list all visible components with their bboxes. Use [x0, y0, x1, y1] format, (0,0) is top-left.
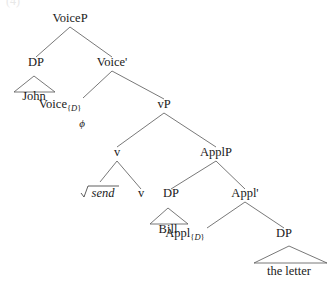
- branch-voiceP-dp: [36, 27, 70, 57]
- branch-applp-applbar: [216, 161, 245, 189]
- branch-vp-v: [117, 113, 164, 147]
- node-vP: vP: [157, 97, 170, 111]
- branch-voiceP-voicebar: [70, 27, 112, 57]
- branch-voicebar-vp: [112, 71, 164, 99]
- node-dp-subject: DP: [28, 55, 44, 69]
- node-appl-head-sub-close: }: [201, 232, 205, 242]
- node-root-send: send: [92, 186, 116, 200]
- node-applP: ApplP: [200, 145, 232, 159]
- tree-node-labels: VoiceP DP Voice' John Voice{D} ϕ vP v Ap…: [22, 11, 312, 278]
- node-v: v: [114, 145, 121, 159]
- node-appl-bar: Appl': [231, 186, 258, 200]
- node-voice-bar: Voice': [97, 55, 128, 69]
- tree-canvas: VoiceP DP Voice' John Voice{D} ϕ vP v Ap…: [0, 0, 335, 284]
- branch-v-vleaf: [117, 161, 141, 189]
- node-voice-head: Voice{D}: [39, 97, 82, 113]
- branch-applbar-applhead: [207, 202, 245, 228]
- branch-voicebar-voicehead: [83, 71, 112, 98]
- branch-vp-applp: [164, 113, 216, 147]
- leaf-the-letter: the letter: [267, 264, 312, 278]
- branch-applp-dpbill: [171, 161, 216, 189]
- branch-applbar-dpletter: [245, 202, 284, 228]
- node-phi: ϕ: [79, 117, 85, 129]
- node-dp-letter: DP: [276, 226, 292, 240]
- node-voiceP: VoiceP: [52, 11, 87, 25]
- node-v-leaf: v: [138, 186, 145, 200]
- branch-v-root: [100, 161, 117, 182]
- node-voice-head-text: Voice: [39, 97, 68, 111]
- triangle-the-letter: [254, 246, 327, 263]
- node-voice-head-sub-close: }: [77, 103, 81, 113]
- syntax-tree-figure: (4): [0, 0, 335, 284]
- node-appl-head: Appl{D}: [165, 226, 204, 242]
- node-dp-bill: DP: [163, 186, 179, 200]
- node-appl-head-text: Appl: [165, 226, 191, 240]
